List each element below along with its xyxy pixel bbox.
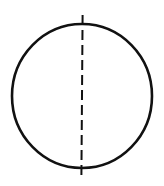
dashed-diameter-line [81,15,82,176]
diagram-canvas [0,0,164,186]
circle-diameter-diagram [0,0,164,186]
